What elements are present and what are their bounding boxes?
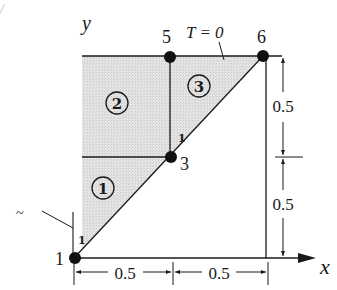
svg-text:1: 1 <box>98 180 108 198</box>
svg-text:5: 5 <box>162 27 171 47</box>
svg-text:2: 2 <box>112 95 122 113</box>
x-axis-arrow-icon <box>298 253 316 263</box>
svg-text:6: 6 <box>257 27 266 47</box>
node-6: 6 <box>257 27 269 62</box>
node-1: 1 <box>55 249 81 269</box>
x-axis-label: x <box>319 254 330 279</box>
local-node-label: 1 <box>78 234 86 247</box>
stray-mark-top: / <box>0 2 5 17</box>
vertical-dimensions <box>275 58 303 256</box>
svg-text:T = 0: T = 0 <box>186 23 224 42</box>
x-axis: x <box>74 253 330 279</box>
dim-horizontal-1: 0.5 <box>114 264 135 283</box>
svg-text:3: 3 <box>180 154 189 174</box>
dim-vertical-1: 0.5 <box>272 97 293 116</box>
horizontal-dimensions <box>74 258 268 285</box>
y-axis-label: y <box>80 12 91 35</box>
boundary-condition-label: T = 0 <box>186 23 224 60</box>
svg-text:1: 1 <box>55 249 64 269</box>
fem-diagram: x y / T = 0 ~ 2 3 1 1 1 1 3 5 6 <box>0 0 337 290</box>
local-node-label: 1 <box>178 132 186 145</box>
dim-horizontal-2: 0.5 <box>208 264 229 283</box>
dim-vertical-2: 0.5 <box>272 195 293 214</box>
node-3: 3 <box>165 151 189 174</box>
node-5: 5 <box>162 27 176 63</box>
svg-text:3: 3 <box>194 78 204 96</box>
stray-mark: ~ <box>16 206 24 221</box>
